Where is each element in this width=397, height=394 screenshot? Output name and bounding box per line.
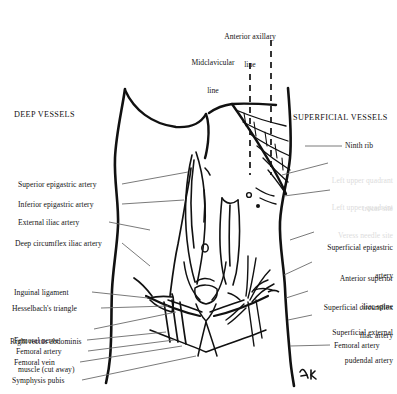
label-hesselbachs-triangle: Hesselbach's triangle [12,304,77,313]
femoral-artery-right-path [248,302,254,346]
asis-bone-point [268,291,279,293]
femoral-vein-left-path [180,302,186,344]
linea-alba-upper [205,168,210,175]
rib-arch-lowest [260,198,276,204]
deep-vessels-left-side [134,168,191,344]
superficial-vessels-right-side [226,256,274,346]
asis-text-1: Anterior superior [309,274,393,283]
label-midclavicular-line: Midclavicular line [177,40,249,114]
right-rectus-cut-lateral [233,200,240,285]
superficial-epigastric-branch-b [246,256,248,296]
right-rectus-cut-fiber [229,205,230,266]
label-symphysis-pubis: Symphysis pubis [12,376,64,385]
superficial-pudendal-text-1: Superficial external [307,328,393,337]
label-ninth-rib: Ninth rib [345,141,373,150]
label-deep-circumflex-iliac-artery: Deep circumflex iliac artery [15,239,102,248]
intercostal-4 [275,144,277,158]
midclavicular-line-text-1: Midclavicular [177,58,249,67]
superficial-epigastric-text-1: Superficial epigastric [305,243,393,252]
right-rectus-cut-edge [222,198,238,203]
rib-arch-lower [256,188,274,196]
label-femoral-vein: Femoral vein [14,358,55,367]
veress-needle-text-1: Left upper quadrant [307,203,393,212]
right-costal-margin [232,104,286,194]
label-inguinal-ligament: Inguinal ligament [14,288,69,297]
xiphoid-process [205,114,209,158]
left-rectus-inner-fiber [191,160,194,248]
label-femoral-nerve: Femoral nerve [14,336,59,345]
trocar-site-marker [247,193,252,198]
leader-inguinal-ligament [92,292,148,298]
label-external-iliac-artery: External iliac artery [18,218,79,227]
veress-needle-site-marker [256,204,260,208]
label-femoral-artery-left: Femoral artery [16,347,62,356]
superficial-branch-e [228,293,240,300]
leader-right-rectus-abdominis [94,312,176,329]
midclavicular-line-text-2: line [177,86,249,95]
leader-symphysis-pubis [82,356,196,380]
leader-femoral-vein [80,346,182,362]
linea-alba-mid [204,190,205,222]
puncture-site-markers [247,193,260,208]
deep-vessels-heading: DEEP VESSELS [14,110,75,119]
leader-deep-circumflex-iliac-artery [122,243,150,266]
leader-inferior-epigastric-artery [122,200,184,204]
rib-cage-right [236,110,290,204]
superficial-vessels-heading: SUPERFICIAL VESSELS [293,113,388,122]
anatomy-figure-page: DEEP VESSELS SUPERFICIAL VESSELS Anterio… [0,0,397,394]
anterior-superior-iliac-spine-marker [268,291,279,293]
pubic-arch [196,304,216,321]
label-inferior-epigastric-artery: Inferior epigastric artery [18,200,94,209]
label-superior-epigastric-artery: Superior epigastric artery [18,180,96,189]
leader-external-iliac-artery [109,222,150,230]
superficial-pudendal-text-2: pudendal artery [307,356,393,365]
label-femoral-artery-right: Femoral artery [334,341,380,350]
left-torso-contour [106,89,125,383]
leader-superior-epigastric-artery [122,172,188,184]
intercostal-5 [282,158,283,170]
leader-femoral-nerve [87,332,166,340]
rib-10 [257,146,290,170]
rectus-abdominis-muscles [186,152,240,285]
right-torso-contour [280,88,294,386]
superficial-branch-d [254,289,272,291]
rib-9 [250,134,290,156]
pubic-symphysis-body [195,285,217,304]
inferior-epigastric-artery-path [170,198,186,296]
deep-circumflex-iliac-artery-path [134,278,152,296]
